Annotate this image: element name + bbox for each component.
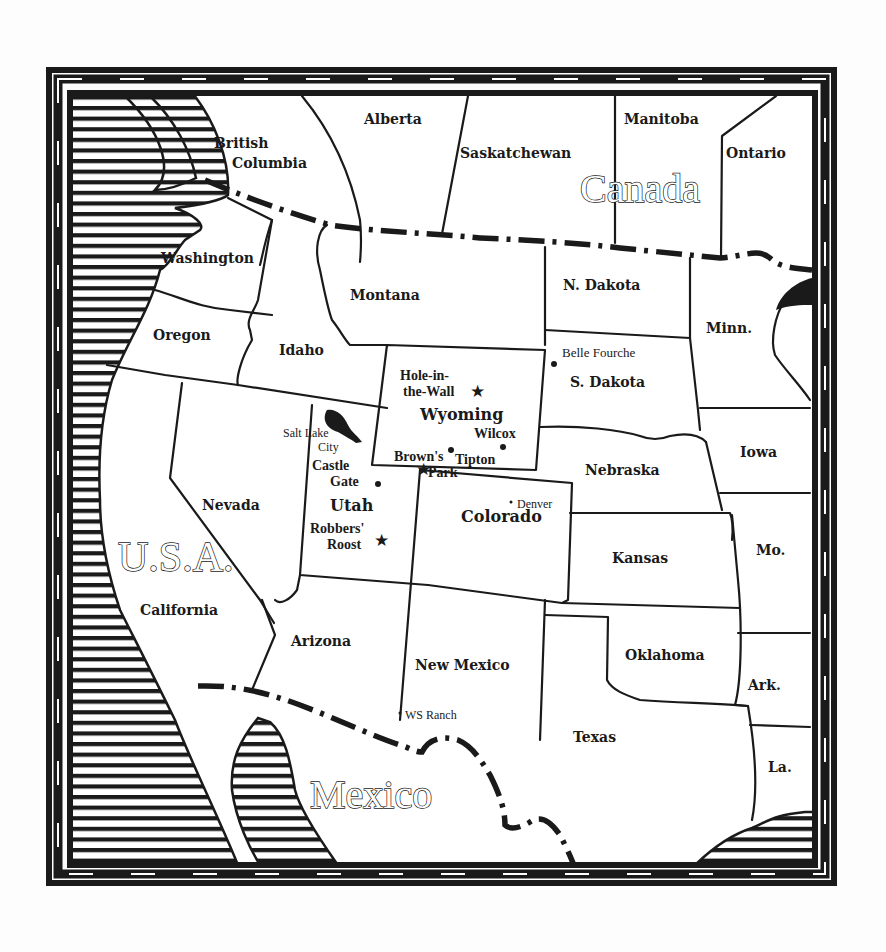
dot-icon-ws-ranch	[399, 712, 402, 715]
state-label-utah: Utah	[330, 496, 374, 515]
state-label-wyoming: Wyoming	[419, 405, 503, 424]
place-label-ws-ranch: WS Ranch	[405, 708, 457, 722]
province-label-bc-2: Columbia	[232, 155, 307, 171]
state-label-n-dakota: N. Dakota	[563, 277, 640, 293]
province-label-saskatchewan: Saskatchewan	[460, 145, 571, 161]
place-label-belle-fourche: Belle Fourche	[562, 345, 636, 360]
province-label-ontario: Ontario	[726, 145, 786, 161]
place-label-salt-lake-city-1: Salt Lake	[283, 426, 329, 440]
dot-icon-castle-gate	[375, 481, 381, 487]
dot-icon-tipton	[448, 447, 454, 453]
state-label-california: California	[140, 602, 218, 618]
state-label-s-dakota: S. Dakota	[570, 374, 645, 390]
map-body	[60, 90, 815, 870]
place-label-browns-park-2: Park	[428, 465, 458, 480]
place-label-denver: Denver	[517, 497, 552, 511]
star-icon-robbers-roost: ★	[374, 530, 389, 550]
state-label-iowa: Iowa	[740, 444, 777, 460]
place-label-robbers-roost-1: Robbers'	[310, 521, 364, 536]
country-label-mexico: Mexico	[310, 772, 432, 817]
state-label-oklahoma: Oklahoma	[625, 647, 705, 663]
place-label-castle-gate-1: Castle	[312, 458, 349, 473]
state-label-montana: Montana	[350, 287, 420, 303]
place-label-hole-in-the-wall-1: Hole-in-	[400, 368, 449, 383]
state-label-oregon: Oregon	[153, 327, 211, 343]
state-label-idaho: Idaho	[279, 342, 324, 358]
state-label-ark: Ark.	[747, 677, 781, 693]
state-label-arizona: Arizona	[290, 633, 351, 649]
state-label-la: La.	[768, 759, 792, 775]
state-label-nebraska: Nebraska	[585, 462, 660, 478]
place-label-castle-gate-2: Gate	[330, 474, 359, 489]
place-label-salt-lake-city-2: City	[318, 440, 339, 454]
state-label-nevada: Nevada	[202, 497, 260, 513]
star-icon-browns-park: ★	[416, 459, 431, 479]
outlaw-trail-map: Canada U.S.A. Mexico British Columbia Al…	[0, 0, 886, 952]
dot-icon-denver	[510, 501, 513, 504]
province-label-manitoba: Manitoba	[624, 111, 699, 127]
place-label-wilcox: Wilcox	[474, 426, 516, 441]
dot-icon-belle-fourche	[551, 361, 557, 367]
dot-icon-wilcox	[500, 444, 506, 450]
state-label-mo: Mo.	[756, 542, 785, 558]
state-label-kansas: Kansas	[612, 550, 668, 566]
state-label-texas: Texas	[573, 729, 616, 745]
province-label-bc-1: British	[214, 135, 268, 151]
province-label-alberta: Alberta	[363, 111, 422, 127]
country-label-canada: Canada	[580, 166, 700, 211]
place-label-robbers-roost-2: Roost	[327, 537, 362, 552]
place-label-tipton: Tipton	[455, 452, 495, 467]
country-label-usa: U.S.A.	[118, 534, 234, 580]
star-icon-hole-in-the-wall: ★	[470, 381, 485, 401]
state-label-new-mexico: New Mexico	[415, 657, 510, 673]
place-label-hole-in-the-wall-2: the-Wall	[403, 384, 454, 399]
state-label-washington: Washington	[160, 250, 254, 266]
state-label-minn: Minn.	[706, 320, 752, 336]
